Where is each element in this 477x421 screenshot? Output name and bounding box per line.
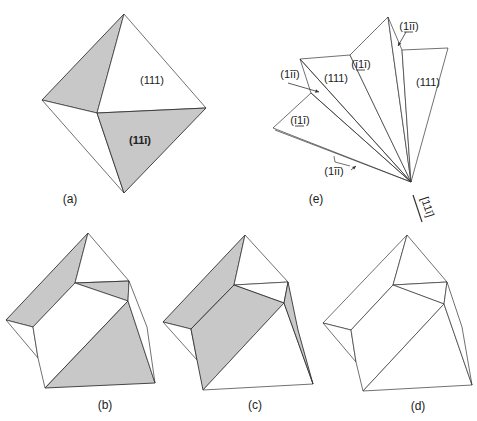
pointer-arrow: [288, 83, 319, 92]
facet-index-label: (1īī): [324, 165, 344, 177]
panel-c-facet-diagram: (c): [163, 235, 313, 412]
panel-b-facet-diagram: (b): [6, 233, 155, 412]
panel-label-a: (a): [63, 192, 78, 206]
panel-label-d: (d): [411, 399, 426, 413]
facet-index-label: (111): [324, 72, 348, 84]
panel-d-facet-diagram: (d): [323, 235, 472, 413]
panel-label-c: (c): [248, 398, 262, 412]
crystal-facet-figure: (111)(11ī)(a) (b) (c) (d) (ī1ī)(1īī)(111…: [0, 0, 477, 421]
panel-e-fan-of-facets: (ī1ī)(1īī)(111)(ī1ī)(1īī)(111)(1īī)[11ī]…: [273, 17, 448, 222]
facet-index-label: (ī1ī): [290, 114, 310, 126]
facet-index-label: (111): [140, 74, 164, 86]
panel-a-octahedron: (111)(11ī)(a): [42, 14, 206, 206]
zone-axis-label: [11ī]: [419, 195, 437, 218]
panel-label-e: (e): [309, 192, 324, 206]
facet-index-label: (11ī): [129, 134, 151, 146]
facet-index-label: (111): [416, 76, 440, 88]
facet-index-label: (ī1ī): [351, 58, 371, 70]
facet-index-label: (1īī): [280, 68, 300, 80]
panel-label-b: (b): [98, 398, 113, 412]
facet-index-label: (1īī): [399, 20, 419, 32]
